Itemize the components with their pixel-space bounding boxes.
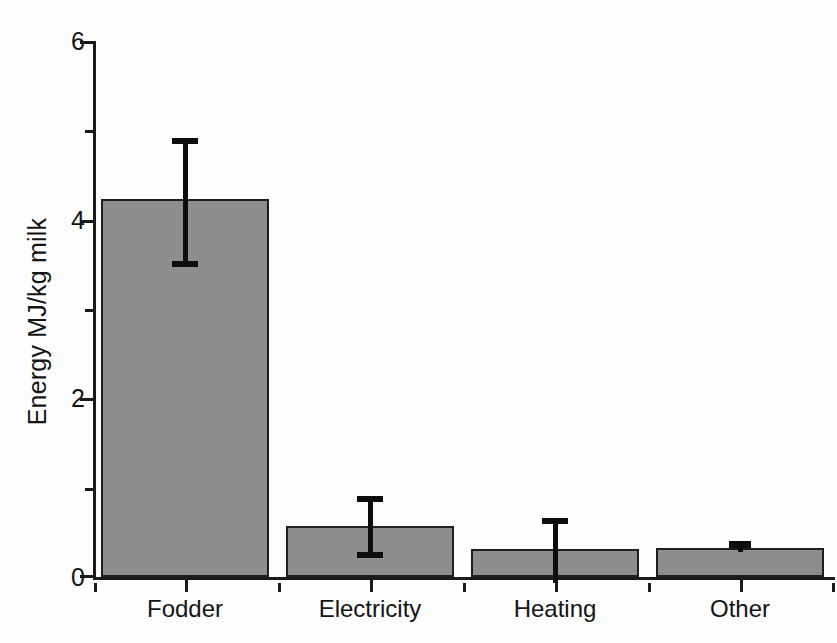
- x-tick-mark-other: [740, 577, 743, 592]
- y-axis-tick-labels: 6 4 2 0: [25, 0, 85, 643]
- error-bar-cap-upper: [542, 518, 568, 524]
- y-tick-label-4: 4: [45, 206, 85, 235]
- bar-chart-figure: Energy MJ/kg milk 6 4 2 0: [0, 0, 837, 643]
- y-tick-mark-1: [85, 488, 94, 491]
- error-bar-cap-upper: [357, 496, 383, 502]
- x-tick-mark-electricity: [370, 577, 373, 592]
- y-tick-mark-0: [80, 575, 94, 578]
- x-tick-mark-minor-1: [278, 583, 281, 592]
- error-bar-other: [656, 541, 824, 577]
- error-bar-line: [368, 497, 373, 555]
- plot-area: [93, 41, 835, 577]
- error-bar-cap-upper: [172, 138, 198, 144]
- y-tick-mark-6: [80, 41, 94, 44]
- error-bar-cap-lower: [357, 552, 383, 558]
- x-label-electricity: Electricity: [319, 595, 422, 623]
- error-bar-heating: [471, 517, 639, 577]
- y-tick-label-0: 0: [45, 563, 85, 592]
- x-axis-category-labels: Fodder Electricity Heating Other: [93, 595, 835, 635]
- y-tick-label-6: 6: [45, 27, 85, 56]
- error-bar-electricity: [286, 496, 454, 577]
- error-bar-cap-upper: [729, 541, 751, 548]
- y-tick-mark-2: [80, 398, 94, 401]
- x-tick-mark-minor-3: [648, 583, 651, 592]
- x-tick-mark-fodder: [185, 577, 188, 592]
- y-tick-mark-4: [80, 220, 94, 223]
- x-tick-mark-edge-left: [94, 583, 97, 592]
- error-bar-line: [183, 138, 188, 264]
- y-tick-mark-3: [85, 309, 94, 312]
- error-bar-line: [553, 519, 558, 583]
- x-label-fodder: Fodder: [147, 595, 223, 623]
- error-bar-cap-lower: [172, 261, 198, 267]
- y-tick-mark-5: [85, 130, 94, 133]
- y-tick-label-2: 2: [45, 384, 85, 413]
- x-tick-mark-edge-right: [832, 583, 835, 592]
- error-bar-fodder: [101, 138, 269, 577]
- x-label-other: Other: [710, 595, 770, 623]
- x-axis-spine: [93, 577, 835, 580]
- x-label-heating: Heating: [514, 595, 597, 623]
- x-tick-mark-minor-2: [463, 583, 466, 592]
